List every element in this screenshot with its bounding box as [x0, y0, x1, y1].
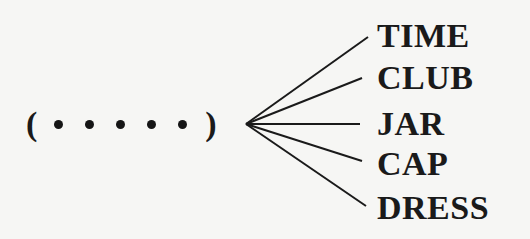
- connector-line-cap: [246, 124, 362, 161]
- connector-line-club: [246, 78, 362, 124]
- word-time: TIME: [377, 19, 470, 53]
- word-jar: JAR: [377, 107, 445, 141]
- connector-line-dress: [246, 124, 366, 206]
- word-cap: CAP: [377, 147, 448, 181]
- word-pattern-diagram: ( ) TIME CLUB JAR CAP DRESS: [0, 0, 530, 239]
- word-club: CLUB: [377, 61, 473, 95]
- word-dress: DRESS: [377, 191, 489, 225]
- connector-line-time: [246, 37, 368, 124]
